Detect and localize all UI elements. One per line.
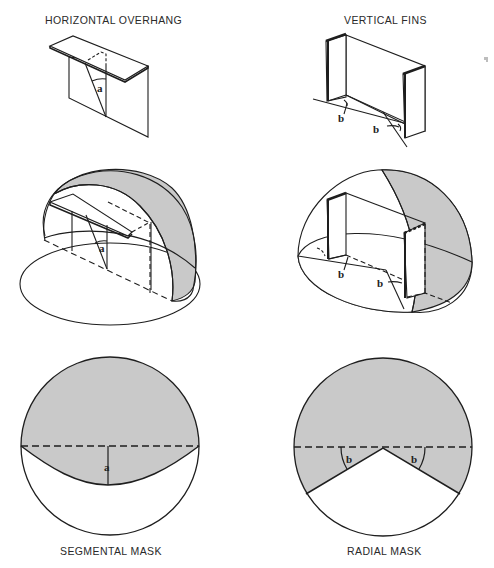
angle-b-label-fin-right: b — [373, 123, 379, 135]
fins-sky-dome-drawing — [298, 170, 472, 312]
angle-a-label-mask: a — [104, 461, 110, 473]
diagram-canvas: a b b — [0, 0, 494, 568]
segmental-mask-drawing — [21, 357, 199, 535]
vertical-fins-drawing — [313, 34, 425, 147]
angle-b-label-mask-left: b — [346, 453, 352, 465]
angle-a-label-overhang: a — [97, 82, 103, 94]
radial-mask-drawing — [294, 358, 472, 536]
stray-mark — [484, 57, 488, 62]
angle-b-label-fin-left: b — [338, 112, 344, 124]
angle-b-label-dome-left: b — [338, 268, 344, 280]
angle-b-label-dome-right: b — [377, 277, 383, 289]
overhang-sky-dome-drawing — [20, 169, 200, 325]
angle-b-label-mask-right: b — [411, 453, 417, 465]
angle-a-label-dome: a — [99, 242, 105, 254]
